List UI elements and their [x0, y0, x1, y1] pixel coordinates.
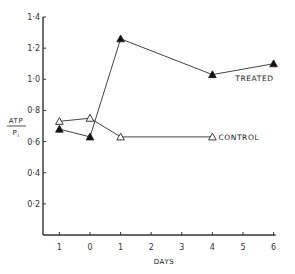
y-axis-title: ATP Pi — [7, 117, 26, 138]
x-tick-label: 5 — [240, 243, 245, 252]
treated-marker-filled-triangle-icon — [117, 35, 125, 42]
x-tick-label: 2 — [149, 243, 154, 252]
data-series: TREATEDCONTROL — [56, 35, 278, 142]
x-tick-label: 3 — [179, 243, 184, 252]
treated-marker-filled-triangle-icon — [270, 60, 278, 67]
control-line — [59, 118, 212, 137]
x-tick-label: 0 — [87, 243, 92, 252]
x-tick-label: 1 — [57, 243, 62, 252]
treated-marker-filled-triangle-icon — [56, 125, 64, 132]
y-tick-label: 0·2 — [27, 200, 40, 209]
y-tick-label: 1·0 — [27, 75, 40, 84]
treated-series-label: TREATED — [234, 74, 273, 83]
x-tick-label: 1 — [118, 243, 123, 252]
y-tick-label: 0·8 — [27, 106, 40, 115]
control-series-label: CONTROL — [218, 133, 259, 142]
x-tick-label: 4 — [210, 243, 215, 252]
y-tick-label: 1·4 — [27, 13, 40, 22]
y-axis-title-numerator: ATP — [9, 117, 24, 125]
atp-pi-line-chart: 0·20·40·60·81·01·21·4 10123456 TREATEDCO… — [0, 0, 295, 274]
y-tick-label: 0·6 — [27, 138, 40, 147]
y-tick-label: 0·4 — [27, 169, 40, 178]
x-axis-title: DAYS — [154, 258, 175, 266]
control-marker-open-triangle-icon — [86, 114, 94, 121]
treated-line — [59, 39, 273, 137]
y-tick-label: 1·2 — [27, 44, 40, 53]
y-axis-title-denominator: Pi — [13, 129, 20, 138]
axes — [43, 17, 276, 235]
x-tick-label: 6 — [271, 243, 276, 252]
